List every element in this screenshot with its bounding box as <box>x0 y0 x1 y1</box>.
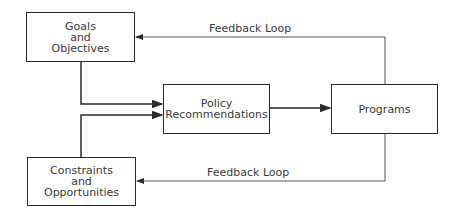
constraints-opportunities-box: Constraints and Opportunities <box>27 157 136 206</box>
policy-line-2: Recommendations <box>165 109 267 120</box>
programs-line-1: Programs <box>358 104 410 115</box>
feedback-loop-top-label: Feedback Loop <box>209 22 291 35</box>
policy-diagram: Goals and Objectives Constraints and Opp… <box>0 0 463 215</box>
goals-objectives-box: Goals and Objectives <box>26 12 135 62</box>
programs-box: Programs <box>331 84 438 134</box>
goals-to-policy-arrow <box>81 61 162 104</box>
goals-line-2: and <box>70 32 91 43</box>
constraints-line-3: Opportunities <box>44 187 119 198</box>
goals-line-3: Objectives <box>52 43 110 54</box>
constraints-to-policy-arrow <box>81 115 162 157</box>
goals-line-1: Goals <box>65 21 96 32</box>
feedback-top-line <box>136 37 385 84</box>
policy-recommendations-box: Policy Recommendations <box>163 84 270 134</box>
feedback-loop-bottom-label: Feedback Loop <box>207 166 289 179</box>
